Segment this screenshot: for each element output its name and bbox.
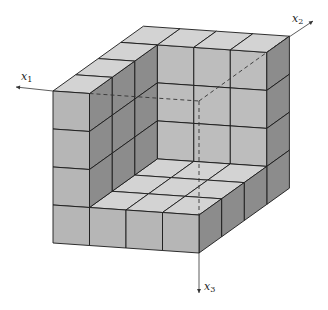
back-wall-face [230,88,266,128]
back-wall-face [230,126,266,166]
front-face [90,208,127,249]
axis-label-x2: x2 [292,12,303,26]
axis-label-x3: x3 [204,280,215,294]
back-wall-face [157,45,194,86]
front-face [53,129,90,170]
arrowhead-icon [197,289,201,293]
axis-label-x1: x1 [21,70,32,84]
front-face [53,205,90,246]
front-face [53,91,90,132]
front-face [163,213,200,254]
back-wall-face [194,47,231,88]
cube-faces [53,26,289,253]
axis-x1 [16,87,53,91]
back-wall-face [157,83,194,124]
front-face [53,167,90,208]
cube-stack-figure: x1x2x3 [0,0,328,310]
arrowhead-icon [309,21,313,25]
front-face [126,210,163,251]
back-wall-face [157,121,194,161]
back-wall-face [230,50,266,91]
cube-diagram: x1x2x3 [0,0,328,310]
